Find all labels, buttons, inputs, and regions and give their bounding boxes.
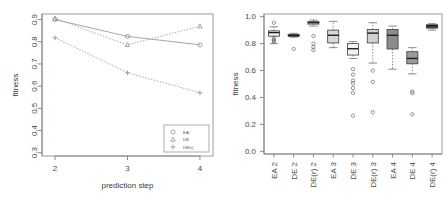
box-group <box>407 48 418 116</box>
y-tick-label: 0.9 <box>30 13 39 25</box>
y-axis-label: fitness <box>11 73 20 96</box>
box-plot-panel: 0.00.20.40.60.81.0fitnessEA 2DE 2DE(r) 2… <box>224 0 448 202</box>
data-point-triangle <box>53 16 57 20</box>
x-tick-label: DE(r) 4 <box>428 161 437 187</box>
x-tick-label: DE(r) 3 <box>369 161 378 187</box>
y-tick-label: 0.2 <box>245 120 257 129</box>
box-group <box>268 21 279 44</box>
outlier-point <box>312 42 315 45</box>
line-chart-legend: EADEDE(r) <box>164 125 209 152</box>
outlier-point <box>292 47 295 50</box>
x-tick-label: 2 <box>53 164 58 173</box>
y-tick-label: 0.3 <box>30 147 39 159</box>
box-group <box>308 20 319 52</box>
outlier-point <box>411 113 414 116</box>
x-tick-label: DE 3 <box>349 161 358 179</box>
outlier-point <box>351 67 354 70</box>
y-axis-label: fitness <box>231 72 240 95</box>
box-group <box>367 23 378 114</box>
y-tick-label: 0.8 <box>245 39 257 48</box>
line-chart-svg: 0.30.40.50.60.70.80.9234fitnesspredictio… <box>0 0 224 202</box>
data-point-triangle <box>125 42 129 46</box>
x-tick-label: EA 4 <box>389 161 398 178</box>
outlier-point <box>312 35 315 38</box>
outlier-point <box>371 69 374 72</box>
x-axis-label: prediction step <box>101 181 154 190</box>
box-rect <box>367 29 378 42</box>
series-line <box>55 38 200 93</box>
x-tick-label: DE(r) 2 <box>309 161 318 187</box>
series-der <box>53 35 203 95</box>
outlier-point <box>272 21 275 24</box>
x-tick-label: 4 <box>198 164 203 173</box>
x-tick-label: DE 2 <box>290 161 299 179</box>
box-group <box>328 21 339 47</box>
outlier-point <box>351 114 354 117</box>
data-point-triangle <box>198 24 202 28</box>
y-tick-label: 0.0 <box>245 147 257 156</box>
box-rect <box>387 29 398 49</box>
legend-label: DE <box>183 137 189 142</box>
x-tick-label: EA 2 <box>270 161 279 178</box>
box-group <box>347 42 358 118</box>
y-tick-label: 0.6 <box>30 80 39 92</box>
legend-label: EA <box>183 130 189 135</box>
box-group <box>427 24 438 30</box>
figure-container: 0.30.40.50.60.70.80.9234fitnesspredictio… <box>0 0 448 202</box>
x-tick-label: EA 3 <box>329 161 338 178</box>
line-chart-panel: 0.30.40.50.60.70.80.9234fitnesspredictio… <box>0 0 224 202</box>
y-tick-label: 0.5 <box>30 102 39 114</box>
legend-label: DE(r) <box>183 145 194 150</box>
y-tick-label: 0.7 <box>30 58 39 70</box>
x-tick-label: DE 4 <box>408 161 417 179</box>
series-line <box>55 18 200 44</box>
outlier-point <box>351 73 354 76</box>
box-plot-svg: 0.00.20.40.60.81.0fitnessEA 2DE 2DE(r) 2… <box>224 0 448 202</box>
box-group <box>387 26 398 69</box>
y-tick-label: 1.0 <box>245 12 257 21</box>
y-tick-label: 0.4 <box>30 124 39 136</box>
outlier-point <box>371 111 374 114</box>
x-tick-label: 3 <box>125 164 130 173</box>
box-group <box>288 33 299 50</box>
outlier-point <box>371 80 374 83</box>
y-tick-label: 0.6 <box>245 66 257 75</box>
outlier-point <box>351 86 354 89</box>
y-tick-label: 0.4 <box>245 93 257 102</box>
box-rect <box>328 30 339 43</box>
series-de <box>53 16 202 47</box>
box-rect <box>268 31 279 36</box>
y-tick-label: 0.8 <box>30 36 39 48</box>
outlier-point <box>351 91 354 94</box>
